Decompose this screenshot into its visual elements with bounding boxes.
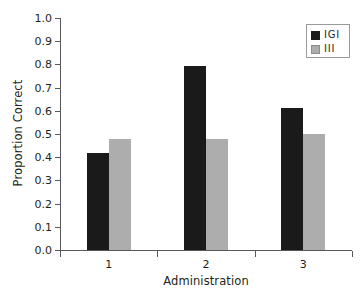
bar-igi-2 (184, 66, 206, 250)
bar-igi-1 (87, 153, 109, 250)
x-axis-separator (255, 251, 256, 257)
bar-iii-3 (303, 134, 325, 250)
legend-label: IGI (324, 30, 340, 40)
bar-chart: Proportion Correct 0.00.10.20.30.40.50.6… (0, 0, 361, 295)
y-axis-tick-label: 0.4 (16, 152, 52, 163)
x-axis-tick-label: 2 (186, 259, 226, 271)
chart-legend: IGIIII (306, 24, 350, 58)
y-axis-tick-label: 0.2 (16, 199, 52, 210)
legend-swatch-icon (311, 45, 320, 54)
legend-item-iii: III (311, 43, 349, 55)
x-axis-separator (157, 251, 158, 257)
y-axis-tick-label: 0.8 (16, 59, 52, 70)
bar-iii-1 (109, 139, 131, 250)
y-axis-tick-label: 0.5 (16, 129, 52, 140)
legend-label: III (324, 44, 335, 54)
legend-item-igi: IGI (311, 29, 349, 41)
bar-igi-3 (281, 108, 303, 250)
x-axis-line (60, 250, 352, 251)
y-axis-tick-label: 0.6 (16, 106, 52, 117)
x-axis-separator (352, 251, 353, 257)
y-axis-tick-label: 0.9 (16, 36, 52, 47)
x-axis-tick-label: 1 (89, 259, 129, 271)
x-axis-title: Administration (60, 275, 352, 288)
y-axis-tick-label: 0.7 (16, 83, 52, 94)
y-axis-tick-label: 0.0 (16, 245, 52, 256)
legend-swatch-icon (311, 31, 320, 40)
y-axis-tick-label: 1.0 (16, 13, 52, 24)
x-axis-tick-label: 3 (283, 259, 323, 271)
x-axis-separator (60, 251, 61, 257)
y-axis-tick-label: 0.1 (16, 222, 52, 233)
bar-iii-2 (206, 139, 228, 250)
y-axis-tick-label: 0.3 (16, 175, 52, 186)
